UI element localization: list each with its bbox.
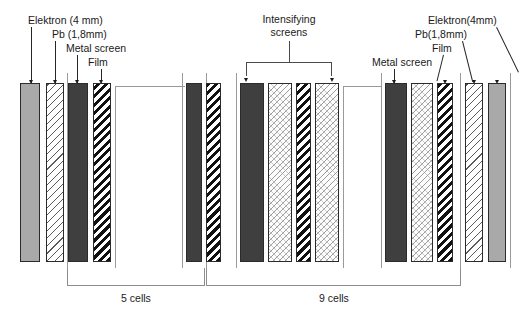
label-pb-right: Pb(1,8mm) <box>415 28 467 40</box>
layer-film <box>437 83 453 262</box>
frame-line-9 <box>510 73 511 268</box>
leader-line-pb-left <box>55 41 56 83</box>
label-film-left: Film <box>88 56 108 68</box>
layer-film <box>206 83 221 262</box>
diagram-canvas: Elektron (4 mm) Pb (1,8mm) Metal screen … <box>0 0 522 325</box>
bracket-label-5-cells: 5 cells <box>104 292 168 304</box>
frame-line-3 <box>182 73 183 268</box>
bracket-9-cells <box>206 268 461 286</box>
bracket-stem-intensifying <box>289 41 290 62</box>
leader-line-metal-screen-left <box>77 55 78 83</box>
label-pb-left: Pb (1,8mm) <box>52 28 107 40</box>
layer-film <box>93 83 111 262</box>
layer-elektron <box>488 83 506 262</box>
bracket-intensifying <box>246 62 332 76</box>
layer-metal-screen <box>68 83 88 262</box>
label-metal-screen-left: Metal screen <box>66 42 126 54</box>
frame-top-1 <box>115 86 185 87</box>
layer-metal-screen <box>240 83 264 262</box>
bracket-5-cells <box>67 268 205 286</box>
label-metal-screen-right: Metal screen <box>372 56 432 68</box>
layer-intensifying-screen <box>411 83 433 262</box>
label-elektron-left: Elektron (4 mm) <box>28 14 103 26</box>
arrowhead-intensifying-right <box>330 78 334 82</box>
layer-metal-screen <box>186 83 202 262</box>
frame-line-8 <box>460 73 461 268</box>
frame-line-5 <box>236 73 237 268</box>
frame-line-6 <box>343 86 344 268</box>
label-film-right: Film <box>432 42 452 54</box>
layer-metal-screen <box>385 83 407 262</box>
layer-film <box>296 83 311 262</box>
layer-pb <box>46 83 64 262</box>
layer-intensifying-screen <box>315 83 339 262</box>
frame-line-7 <box>381 73 382 268</box>
leader-line-elektron-left <box>31 27 32 83</box>
leader-line-pb-right <box>462 41 473 82</box>
layer-intensifying-screen <box>268 83 292 262</box>
label-intensifying-line1: Intensifying <box>243 13 335 25</box>
leader-line-film-right <box>436 55 444 81</box>
frame-line-2 <box>115 86 116 268</box>
layer-pb <box>465 83 483 262</box>
leader-line-elektron-right <box>496 27 519 72</box>
arrowhead-intensifying-left <box>244 78 248 82</box>
label-intensifying-line2: screens <box>243 26 335 38</box>
layer-elektron <box>20 83 40 262</box>
bracket-label-9-cells: 9 cells <box>302 292 366 304</box>
label-elektron-right: Elektron(4mm) <box>428 14 497 26</box>
frame-top-2 <box>343 86 382 87</box>
